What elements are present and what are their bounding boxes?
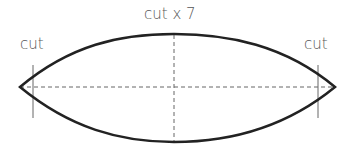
- lens-outline: [20, 34, 335, 142]
- lens-shape-diagram: [0, 0, 353, 147]
